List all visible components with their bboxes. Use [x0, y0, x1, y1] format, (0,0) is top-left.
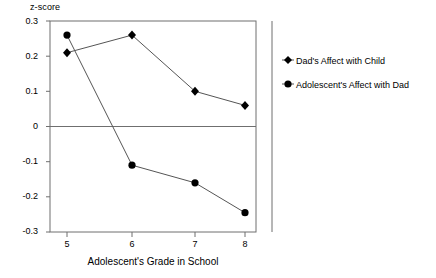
legend-label-adolescents-affect: Adolescent's Affect with Dad [296, 80, 409, 90]
y-tick-label-2: 0.1 [8, 87, 38, 96]
x-tick-label-3: 8 [233, 240, 257, 249]
y-tick-label-5: -0.2 [8, 192, 38, 201]
y-tick-label-0: 0.3 [8, 17, 38, 26]
y-axis-label: z-score [30, 2, 60, 12]
y-tick-label-3: 0 [8, 122, 38, 131]
y-tick-label-1: 0.2 [8, 52, 38, 61]
x-tick-label-0: 5 [55, 240, 79, 249]
x-axis-label: Adolescent's Grade in School [50, 256, 256, 267]
chart-background [0, 0, 436, 278]
legend-label-dads-affect: Dad's Affect with Child [296, 56, 385, 66]
x-tick-label-1: 6 [120, 240, 144, 249]
x-tick-label-2: 7 [183, 240, 207, 249]
y-tick-label-4: -0.1 [8, 157, 38, 166]
chart-figure [0, 0, 436, 278]
y-tick-label-6: -0.3 [8, 227, 38, 236]
